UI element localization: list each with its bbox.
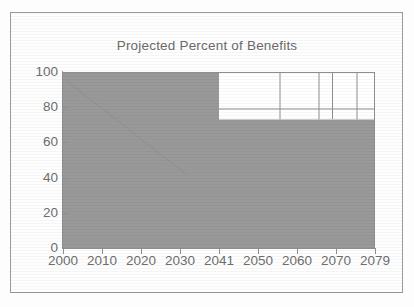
- y-tick-label-20: 20: [12, 206, 58, 220]
- y-axis-line: [62, 71, 63, 249]
- x-tick-mark-2079: [375, 248, 376, 254]
- x-tick-mark-2070: [336, 248, 337, 254]
- x-tick-mark-2000: [63, 248, 64, 254]
- x-axis-labels: 200020102020203020412050206020702079: [0, 254, 414, 274]
- y-tick-mark-20: [62, 213, 68, 214]
- y-tick-label-40: 40: [12, 171, 58, 185]
- y-tick-mark-60: [62, 142, 68, 143]
- plot-area: [63, 72, 375, 248]
- x-tick-mark-2030: [180, 248, 181, 254]
- chart-title-line-1: Projected Percent of Benefits: [117, 38, 298, 53]
- chart-page: Projected Percent of Benefits That Can B…: [0, 0, 414, 307]
- x-tick-mark-2041: [219, 248, 220, 254]
- y-tick-mark-40: [62, 178, 68, 179]
- x-tick-mark-2050: [258, 248, 259, 254]
- y-tick-label-100: 100: [12, 65, 58, 79]
- y-tick-label-60: 60: [12, 135, 58, 149]
- x-tick-mark-2010: [102, 248, 103, 254]
- y-tick-label-80: 80: [12, 100, 58, 114]
- y-tick-mark-80: [62, 107, 68, 108]
- x-tick-mark-2060: [297, 248, 298, 254]
- x-tick-label-2079: 2079: [352, 254, 398, 268]
- gridline-2070: [332, 72, 333, 119]
- x-tick-mark-2020: [141, 248, 142, 254]
- y-tick-mark-100: [62, 72, 68, 73]
